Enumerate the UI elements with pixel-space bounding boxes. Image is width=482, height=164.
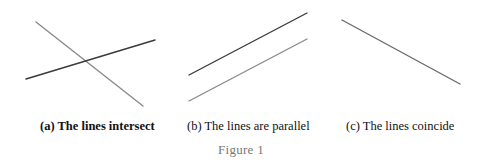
figure-title: Figure 1 <box>0 142 482 158</box>
panel-a-intersecting-lines <box>26 22 155 106</box>
caption-panel-c: (c) The lines coincide <box>346 119 454 134</box>
panel-c-coincident-lines <box>342 20 460 84</box>
panel-b-line-2 <box>189 39 307 101</box>
panel-b-parallel-lines <box>189 13 307 101</box>
panel-b-line-1 <box>189 13 307 75</box>
panel-c-line-1 <box>342 20 460 84</box>
panel-a-line-2 <box>26 40 155 79</box>
figure-drawing <box>0 0 482 115</box>
caption-panel-a: (a) The lines intersect <box>40 119 155 134</box>
panel-a-line-1 <box>36 22 143 106</box>
caption-panel-b: (b) The lines are parallel <box>187 119 310 134</box>
